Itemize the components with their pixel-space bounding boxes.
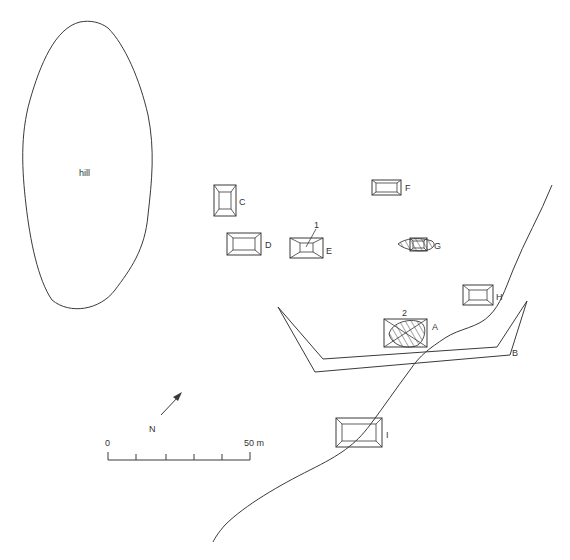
north-label: N [149, 424, 156, 434]
structure-c-label: C [239, 197, 246, 207]
structure-d-label: D [265, 240, 272, 250]
structure-f-label: F [405, 183, 411, 193]
structure-a: 2 A [384, 308, 438, 347]
enclosure-b-label: B [512, 348, 518, 358]
structure-d: D [227, 233, 272, 255]
structure-g-label: G [434, 241, 441, 251]
site-plan-map: hill C D 1 E F G [0, 0, 570, 560]
structure-h: H [463, 285, 503, 305]
hill: hill [23, 21, 152, 308]
north-arrow: N [149, 392, 182, 434]
structure-i-label: I [386, 430, 389, 440]
structure-i: I [336, 418, 389, 447]
structure-g: G [398, 238, 441, 251]
structure-c: C [214, 185, 246, 216]
hill-label: hill [79, 168, 90, 178]
structure-a-label: A [432, 322, 438, 332]
structure-e-label: E [326, 246, 332, 256]
scale-end-label: 50 m [244, 438, 264, 448]
scale-start-label: 0 [105, 438, 110, 448]
river [213, 185, 552, 542]
north-arrow-icon [173, 392, 182, 401]
structure-e: 1 E [290, 220, 332, 258]
feature-1-label: 1 [314, 220, 319, 230]
scale-bar: 0 50 m [105, 438, 264, 460]
structure-f: F [372, 180, 411, 195]
feature-2-label: 2 [402, 308, 407, 318]
